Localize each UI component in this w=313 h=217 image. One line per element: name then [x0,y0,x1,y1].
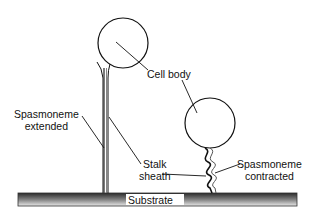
label-spasmoneme-contracted: Spasmoneme contracted [237,158,302,182]
cell-body-contracted [185,98,235,148]
label-substrate: Substrate [128,194,173,206]
vorticella-diagram: Cell body Spasmoneme extended Stalk shea… [0,0,313,217]
contracted-organism [185,98,235,193]
label-cell-body: Cell body [147,68,191,80]
cell-body-extended [98,18,148,68]
label-line-1: Stalk [139,158,171,170]
label-line-2: extended [14,120,79,132]
label-spasmoneme-extended: Spasmoneme extended [14,108,79,132]
label-line-1: Spasmoneme [237,158,302,170]
label-line-2: contracted [237,170,302,182]
label-stalk-sheath: Stalk sheath [139,158,171,182]
label-line-2: sheath [139,170,171,182]
label-line-1: Spasmoneme [14,108,79,120]
